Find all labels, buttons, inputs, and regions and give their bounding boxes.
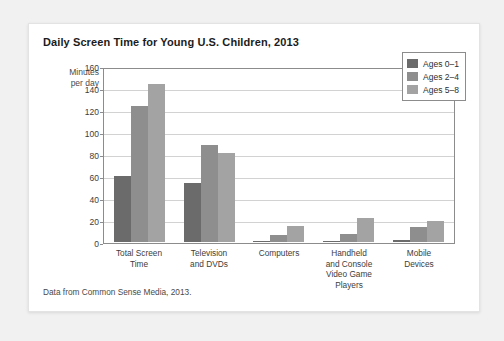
x-axis-label: Computers [248, 248, 310, 259]
bar [357, 218, 374, 242]
x-axis-label-line: and DVDs [178, 259, 240, 270]
y-axis-tick-label: 120 [73, 107, 99, 117]
legend-label: Ages 2–4 [423, 72, 459, 82]
legend-label: Ages 0–1 [423, 59, 459, 69]
bar [287, 226, 304, 242]
x-axis-label: Televisionand DVDs [178, 248, 240, 269]
bar-group [323, 70, 374, 242]
bar-group [253, 70, 304, 242]
y-axis-tick-label: 40 [73, 195, 99, 205]
x-axis-label: MobileDevices [388, 248, 450, 269]
x-axis-label-line: Players [318, 280, 380, 291]
x-axis-label: Handheldand ConsoleVideo GamePlayers [318, 248, 380, 290]
x-axis-label-line: Time [108, 259, 170, 270]
y-axis-tick-label: 100 [73, 129, 99, 139]
bar [270, 235, 287, 242]
source-note: Data from Common Sense Media, 2013. [43, 287, 192, 297]
x-axis-label-line: Devices [388, 259, 450, 270]
x-axis-label: Total ScreenTime [108, 248, 170, 269]
x-axis-labels: Total ScreenTimeTelevisionand DVDsComput… [104, 248, 454, 290]
x-axis-label-line: Television [178, 248, 240, 259]
x-axis-label-line: Mobile [388, 248, 450, 259]
legend-color-swatch [407, 85, 418, 94]
page-background: Daily Screen Time for Young U.S. Childre… [0, 0, 504, 341]
bar [253, 241, 270, 242]
legend-color-swatch [407, 59, 418, 68]
y-axis-tick-label: 80 [73, 151, 99, 161]
bar [184, 183, 201, 242]
x-axis-label-line: and Console [318, 259, 380, 270]
legend-item: Ages 5–8 [407, 83, 459, 96]
y-axis-tick-mark [100, 244, 103, 245]
legend-item: Ages 0–1 [407, 57, 459, 70]
x-axis-label-line: Handheld [318, 248, 380, 259]
legend-item: Ages 2–4 [407, 70, 459, 83]
chart-title: Daily Screen Time for Young U.S. Childre… [43, 36, 299, 48]
y-axis-tick-label: 160 [73, 63, 99, 73]
bar [427, 221, 444, 242]
y-axis-tick-label: 0 [73, 239, 99, 249]
bar [114, 176, 131, 242]
bar [410, 227, 427, 242]
chart-card: Daily Screen Time for Young U.S. Childre… [28, 23, 480, 312]
bar [201, 145, 218, 242]
bar-group [184, 70, 235, 242]
legend-color-swatch [407, 72, 418, 81]
bar [323, 241, 340, 242]
chart-legend: Ages 0–1Ages 2–4Ages 5–8 [402, 52, 466, 101]
bar-group [114, 70, 165, 242]
y-axis-tick-label: 20 [73, 217, 99, 227]
x-axis-label-line: Video Game [318, 269, 380, 280]
bar-series-container [105, 70, 453, 242]
bar [218, 153, 235, 242]
bar [340, 234, 357, 242]
legend-label: Ages 5–8 [423, 85, 459, 95]
y-axis-tick-label: 140 [73, 85, 99, 95]
x-axis-label-line: Computers [248, 248, 310, 259]
bar [393, 240, 410, 242]
y-axis-tick-label: 60 [73, 173, 99, 183]
bar [131, 106, 148, 242]
x-axis-label-line: Total Screen [108, 248, 170, 259]
bar [148, 84, 165, 242]
